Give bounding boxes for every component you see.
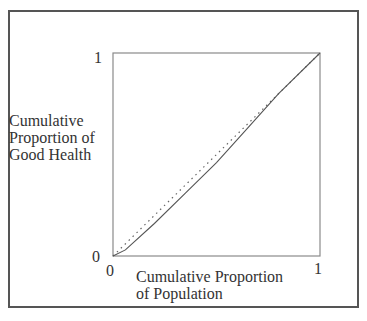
x-axis-label-line-1: Cumulative Proportion	[136, 268, 283, 285]
x-axis-label: Cumulative Proportion of Population	[136, 268, 283, 302]
x-tick-1: 1	[314, 260, 322, 278]
y-axis-label-line-1: Cumulative	[9, 112, 95, 129]
x-axis-label-line-2: of Population	[136, 285, 283, 302]
concentration-curve	[113, 53, 320, 256]
y-axis-label-line-2: Proportion of	[9, 129, 95, 146]
y-axis-label: Cumulative Proportion of Good Health	[9, 112, 95, 163]
y-axis-label-line-3: Good Health	[9, 146, 95, 163]
y-tick-0: 0	[92, 248, 100, 266]
x-tick-0: 0	[106, 262, 114, 280]
y-tick-1: 1	[94, 49, 102, 67]
